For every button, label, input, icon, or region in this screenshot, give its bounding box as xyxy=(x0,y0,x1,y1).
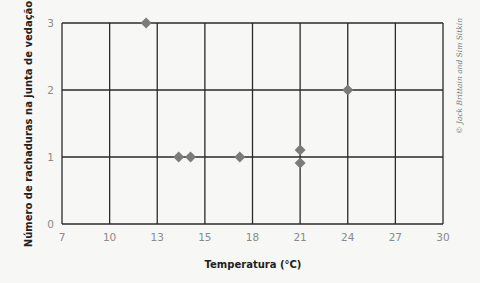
x-tick-label: 24 xyxy=(341,231,355,243)
y-tick-label: 3 xyxy=(47,17,54,29)
x-tick-label: 21 xyxy=(293,231,306,243)
y-tick-label: 2 xyxy=(47,84,54,96)
data-point-diamond xyxy=(173,152,184,163)
x-tick-label: 30 xyxy=(436,231,449,243)
scatter-chart: 71013151821242730 0123 Temperatura (°C) … xyxy=(0,0,480,283)
data-point-diamond xyxy=(141,18,152,29)
y-tick-label: 0 xyxy=(47,218,54,230)
data-point-diamond xyxy=(295,158,306,169)
copyright-credit: © Jack Brittain and Sim Sitkin xyxy=(455,18,464,134)
x-axis-ticks: 71013151821242730 xyxy=(59,231,450,243)
x-tick-label: 15 xyxy=(198,231,211,243)
x-tick-label: 13 xyxy=(151,231,164,243)
data-point-diamond xyxy=(185,152,196,163)
grid-lines xyxy=(62,23,443,224)
data-points xyxy=(141,18,354,169)
x-tick-label: 10 xyxy=(103,231,116,243)
data-point-diamond xyxy=(234,152,245,163)
data-point-diamond xyxy=(295,145,306,156)
y-tick-label: 1 xyxy=(47,151,54,163)
x-tick-label: 27 xyxy=(389,231,402,243)
x-tick-label: 7 xyxy=(59,231,66,243)
y-axis-title: Número de rachaduras na junta de vedação xyxy=(23,1,34,248)
data-point-diamond xyxy=(342,85,353,96)
y-axis-ticks: 0123 xyxy=(47,17,54,230)
x-tick-label: 18 xyxy=(246,231,259,243)
x-axis-title: Temperatura (°C) xyxy=(205,259,302,270)
